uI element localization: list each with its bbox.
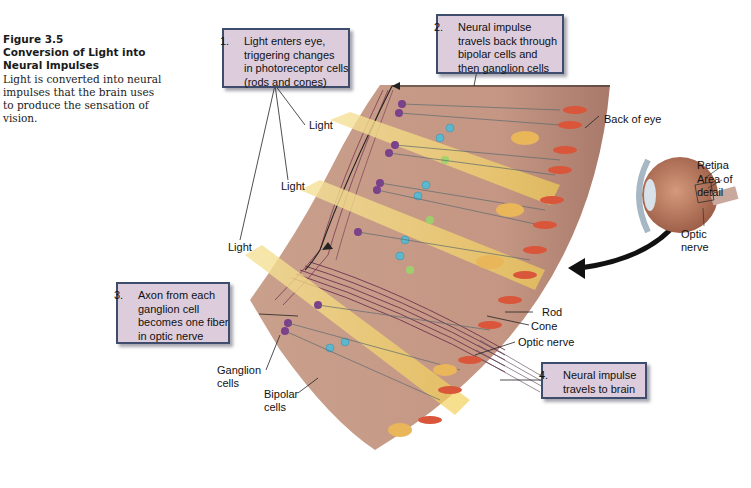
label-light-3: Light	[228, 241, 252, 254]
callout-step-2: 2.Neural impulse travels back through bi…	[436, 14, 564, 74]
label-cone: Cone	[531, 320, 557, 333]
label-back-of-eye: Back of eye	[604, 113, 661, 126]
callout-step-1: 1.Light enters eye, triggering changes i…	[222, 28, 350, 88]
retina-illustration	[0, 0, 751, 488]
label-light-1: Light	[309, 119, 333, 132]
label-optic-nerve: Optic nerve	[518, 336, 574, 349]
label-retina: Retina	[697, 159, 729, 172]
label-area-of-detail: Area of detail	[697, 173, 732, 199]
callout-step-4: 4.Neural impulse travels to brain	[541, 362, 647, 399]
label-bipolar-cells: Bipolar cells	[264, 388, 298, 414]
label-rod: Rod	[542, 306, 562, 319]
label-optic-nerve-small: Optic nerve	[681, 228, 709, 254]
label-light-2: Light	[281, 180, 305, 193]
callout-step-3: 3.Axon from each ganglion cell becomes o…	[116, 282, 230, 344]
label-ganglion-cells: Ganglion cells	[217, 364, 261, 390]
